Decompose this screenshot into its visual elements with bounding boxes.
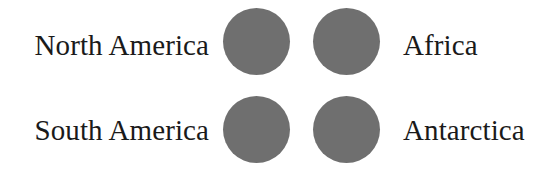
circle-row2-right[interactable] bbox=[313, 96, 380, 163]
circle-row2-left[interactable] bbox=[223, 96, 290, 163]
circle-row1-left[interactable] bbox=[223, 8, 290, 75]
label-south-america: South America bbox=[8, 116, 209, 145]
label-africa: Africa bbox=[403, 31, 548, 60]
label-north-america: North America bbox=[8, 31, 209, 60]
label-antarctica: Antarctica bbox=[403, 116, 548, 145]
circle-row1-right[interactable] bbox=[313, 8, 380, 75]
diagram-canvas: North America Africa South America Antar… bbox=[0, 0, 552, 175]
